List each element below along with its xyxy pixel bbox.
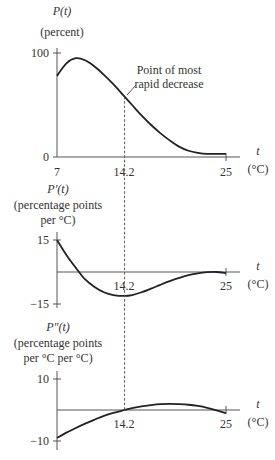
panel-p-double-prime: P″(t) (percentage points per °C per °C) … [14,320,269,450]
xtick-label-p-25: 25 [220,165,232,179]
ylabel-ppp-line2: (percentage points [14,336,103,350]
ytick-label-ppp-10: 10 [37,372,49,386]
ylabel-pp-line1: P′(t) [46,182,68,196]
xunit-p: (°C) [248,162,269,176]
xtick-label-p-14-2: 14.2 [114,165,135,179]
annotation-line1: Point of most [137,63,202,77]
xlabel-pp: t [256,259,260,273]
xtick-label-ppp-14-2: 14.2 [114,417,135,431]
xlabel-ppp: t [256,397,260,411]
ytick-label-pp-neg15: −15 [30,297,49,311]
panel-p-prime: P′(t) (percentage points per °C) 15 −15 … [14,182,269,311]
panel-p: P(t) (percent) 100 0 7 14.2 25 t (°C) Po… [31,4,268,179]
xtick-label-pp-25: 25 [220,279,232,293]
ytick-label-ppp-neg10: −10 [30,434,49,448]
ylabel-ppp-line1: P″(t) [45,320,70,334]
ylabel-pp-line2: (percentage points [14,198,103,212]
ylabel-pp-line3: per °C) [40,213,75,227]
ytick-label-pp-15: 15 [37,233,49,247]
xtick-label-pp-14-2: 14.2 [114,279,135,293]
derivative-charts: P(t) (percent) 100 0 7 14.2 25 t (°C) Po… [0,0,275,460]
xlabel-p: t [256,144,260,158]
xunit-pp: (°C) [248,277,269,291]
annotation-line2: rapid decrease [135,77,204,91]
xtick-label-ppp-25: 25 [220,417,232,431]
xtick-label-p-7: 7 [54,165,60,179]
curve-p-double-prime [57,404,226,438]
ylabel-p-line2: (percent) [40,25,83,39]
ylabel-ppp-line3: per °C per °C) [23,351,92,365]
ytick-label-p-100: 100 [31,46,49,60]
curve-p-prime [57,240,226,296]
ylabel-p-line1: P(t) [52,4,72,18]
ytick-label-p-0: 0 [43,150,49,164]
xunit-ppp: (°C) [248,415,269,429]
